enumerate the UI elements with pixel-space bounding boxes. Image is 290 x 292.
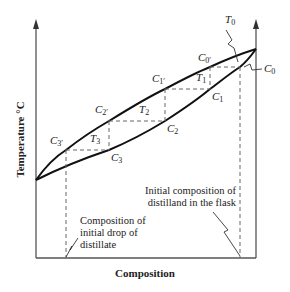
label-c0: C0 <box>264 63 275 76</box>
label-c2-prime: C2′ <box>95 104 108 117</box>
y-axis-right-arrow-icon <box>253 19 259 29</box>
c0-leader-line <box>244 64 262 70</box>
x-axis-title: Composition <box>0 268 290 279</box>
label-c0-prime: C0′ <box>198 52 211 65</box>
label-c2: C2 <box>167 123 178 136</box>
label-t3: T3 <box>90 133 100 146</box>
initial-drop-leader-line <box>66 238 78 257</box>
initial-drop-note: Composition of initial drop of distillat… <box>80 215 146 251</box>
y-axis-left-arrow-icon <box>33 19 39 29</box>
label-t2: T2 <box>139 104 149 117</box>
initial-composition-leader-line <box>213 212 240 256</box>
y-axis-title: Temperature °C <box>15 90 26 190</box>
label-c1: C1 <box>212 91 223 104</box>
label-c1-prime: C1′ <box>152 73 165 86</box>
distillation-phase-diagram: T0 C0 C0′ T1 C1 C1′ T2 C2 C2′ T3 C3 C3′ … <box>0 0 290 292</box>
initial-composition-note: Initial composition of distilland in the… <box>136 185 236 209</box>
label-t1: T1 <box>196 72 206 85</box>
label-c3: C3 <box>111 152 122 165</box>
label-t0: T0 <box>225 14 235 27</box>
label-c3-prime: C3′ <box>50 135 63 148</box>
